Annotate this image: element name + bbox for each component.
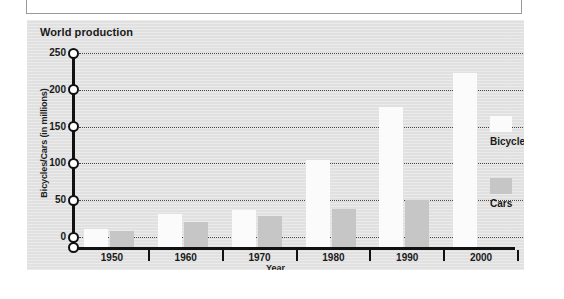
bar-group-1960 — [149, 53, 223, 248]
x-axis-label-1990: 1990 — [370, 252, 444, 263]
y-axis-tick-label: 250 — [36, 47, 66, 58]
bar-bicycles-1970 — [232, 210, 256, 248]
bar-group-2000 — [444, 53, 518, 248]
legend-swatch-bicycles — [490, 116, 512, 132]
x-axis-label-1980: 1980 — [297, 252, 371, 263]
bar-bicycles-1990 — [379, 107, 403, 248]
y-axis-tick-label: 200 — [36, 84, 66, 95]
x-axis-title: Year — [27, 263, 524, 270]
y-axis-tick-label: 100 — [36, 157, 66, 168]
bar-cars-1960 — [184, 222, 208, 248]
y-axis-tick-label: 0 — [36, 231, 66, 242]
x-axis-label-1950: 1950 — [75, 252, 149, 263]
bar-cars-1950 — [110, 231, 134, 248]
bar-group-1950 — [75, 53, 149, 248]
legend-swatch-cars — [490, 178, 512, 194]
bar-cars-1990 — [405, 200, 429, 248]
bar-bicycles-1980 — [306, 160, 330, 248]
bar-cars-1980 — [332, 209, 356, 248]
chart-panel: World production Bicycles/Cars (in milli… — [27, 20, 524, 270]
bar-bicycles-1950 — [84, 229, 108, 248]
legend-label-cars: Cars — [490, 198, 512, 209]
x-axis-label-1960: 1960 — [149, 252, 223, 263]
y-axis-tick-label: 50 — [36, 194, 66, 205]
legend-label-bicycles: Bicycles — [490, 136, 524, 147]
y-axis-tick-label: 150 — [36, 121, 66, 132]
bar-cars-1970 — [258, 216, 282, 248]
plot-area — [75, 53, 518, 248]
bar-bicycles-1960 — [158, 214, 182, 248]
legend-entry-cars: Cars — [490, 178, 512, 209]
chart-title: World production — [40, 26, 133, 38]
legend-entry-bicycles: Bicycles — [490, 116, 524, 147]
bar-group-1990 — [370, 53, 444, 248]
x-axis-label-1970: 1970 — [223, 252, 297, 263]
bar-group-1970 — [223, 53, 297, 248]
x-axis-label-2000: 2000 — [444, 252, 518, 263]
top-frame-box — [26, 0, 522, 14]
bar-bicycles-2000 — [453, 73, 477, 248]
x-axis-line — [72, 247, 515, 250]
bar-group-1980 — [297, 53, 371, 248]
